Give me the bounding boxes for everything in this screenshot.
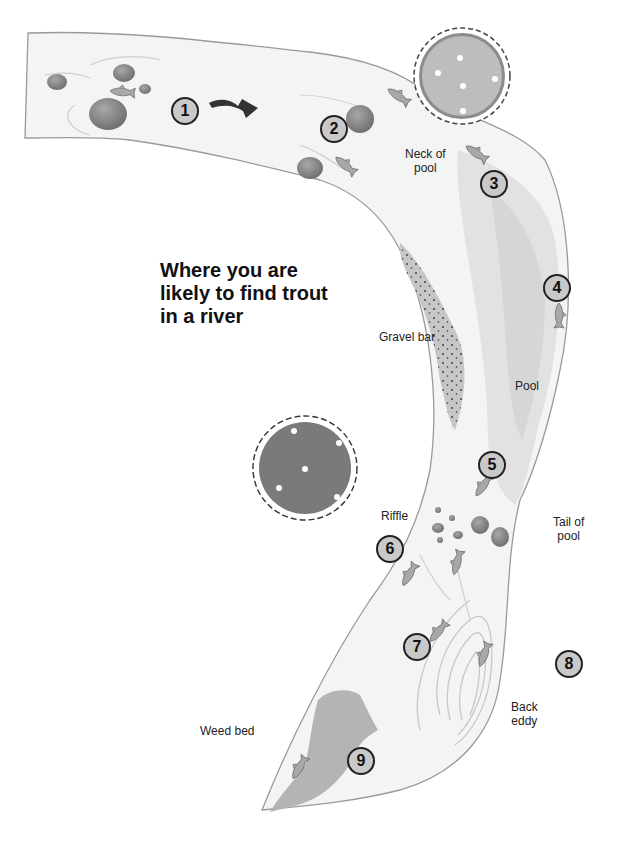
label-weed-bed: Weed bed <box>200 724 255 738</box>
title-line-2: likely to find trout <box>160 282 328 304</box>
diagram-title: Where you are likely to find trout in a … <box>160 259 380 328</box>
location-marker-3: 3 <box>480 170 508 198</box>
label-pool: Pool <box>515 379 539 393</box>
title-line-1: Where you are <box>160 259 298 281</box>
tree-canopy-left <box>253 416 357 520</box>
title-line-3: in a river <box>160 305 243 327</box>
location-marker-9: 9 <box>347 747 375 775</box>
location-marker-1: 1 <box>171 97 199 125</box>
label-gravel-bar: Gravel bar <box>379 330 435 344</box>
label-neck-of-pool: Neck ofpool <box>405 147 446 175</box>
location-marker-4: 4 <box>543 274 571 302</box>
location-marker-2: 2 <box>320 115 348 143</box>
location-marker-6: 6 <box>376 535 404 563</box>
label-back-eddy: Backeddy <box>511 700 538 728</box>
label-riffle: Riffle <box>381 509 408 523</box>
tree-canopy-top <box>414 28 510 124</box>
location-marker-5: 5 <box>478 451 506 479</box>
label-tail-of-pool: Tail ofpool <box>553 515 584 543</box>
location-marker-8: 8 <box>555 650 583 678</box>
location-marker-7: 7 <box>403 633 431 661</box>
